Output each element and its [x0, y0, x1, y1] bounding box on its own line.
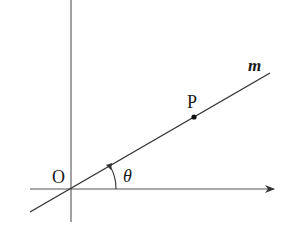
line-m-label: m: [248, 56, 261, 75]
line-m: [30, 73, 270, 212]
point-p-label: P: [187, 92, 197, 112]
origin-label: O: [52, 167, 65, 187]
angle-arrow-icon: [106, 163, 112, 170]
angle-theta-label: θ: [123, 166, 132, 186]
point-p: [191, 114, 196, 119]
diagram-canvas: O P m θ: [0, 0, 292, 248]
